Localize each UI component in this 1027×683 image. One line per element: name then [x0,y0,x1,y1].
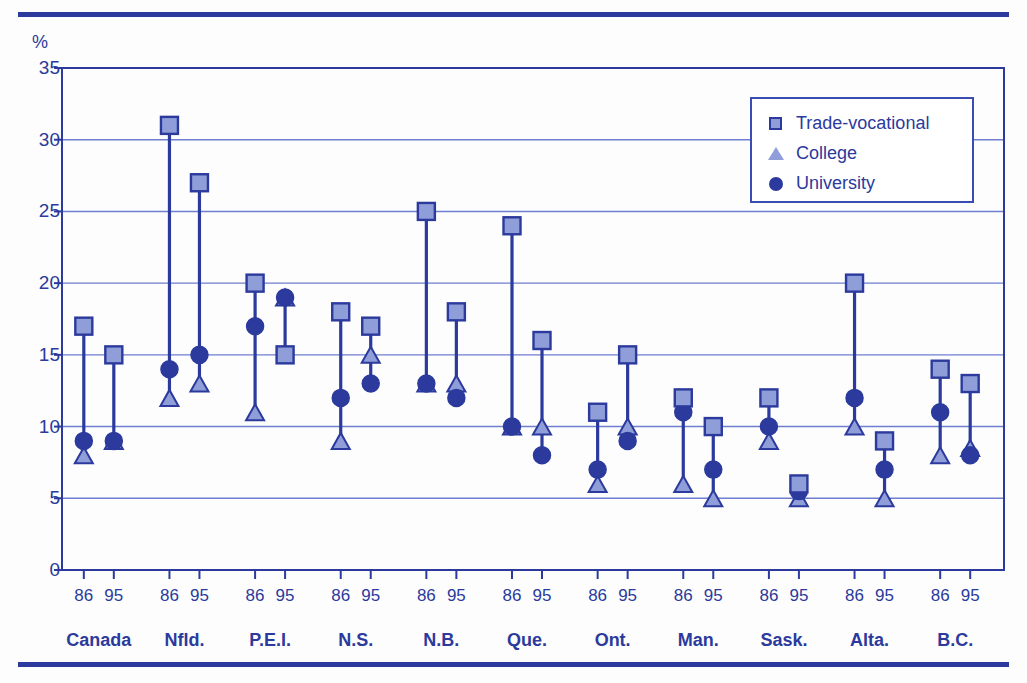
x-axis-region-label: Que. [507,630,547,651]
x-axis-year-label: 95 [533,586,552,606]
marker-university-circle[interactable] [932,404,949,421]
x-axis-year-label: 86 [331,586,350,606]
marker-trade-vocational-square[interactable] [418,203,435,220]
marker-university-circle[interactable] [876,461,893,478]
legend-square-icon-shape [769,117,782,130]
x-axis-year-label: 86 [74,586,93,606]
x-axis-year-label: 95 [704,586,723,606]
marker-university-circle[interactable] [589,461,606,478]
x-axis-year-label: 95 [361,586,380,606]
marker-trade-vocational-square[interactable] [705,418,722,435]
legend-item-college[interactable]: College [766,138,972,168]
marker-college-triangle[interactable] [332,433,350,449]
legend-square-icon [766,112,788,134]
marker-trade-vocational-square[interactable] [332,303,349,320]
marker-university-circle[interactable] [362,375,379,392]
marker-trade-vocational-square[interactable] [75,318,92,335]
x-axis-year-label: 86 [845,586,864,606]
x-axis-year-label: 86 [503,586,522,606]
marker-trade-vocational-square[interactable] [448,303,465,320]
x-axis-region-label: N.S. [338,630,373,651]
marker-university-circle[interactable] [760,418,777,435]
x-axis-region-label: B.C. [937,630,973,651]
x-axis-year-label: 95 [104,586,123,606]
marker-university-circle[interactable] [846,389,863,406]
x-axis-region-label: Alta. [850,630,889,651]
marker-college-triangle[interactable] [246,404,264,420]
marker-university-circle[interactable] [247,318,264,335]
marker-university-circle[interactable] [962,447,979,464]
marker-trade-vocational-square[interactable] [760,389,777,406]
legend-triangle-icon-shape [768,147,784,160]
marker-trade-vocational-square[interactable] [790,475,807,492]
x-axis-year-label: 86 [931,586,950,606]
marker-trade-vocational-square[interactable] [619,346,636,363]
marker-trade-vocational-square[interactable] [191,174,208,191]
legend-label: Trade-vocational [796,114,929,132]
x-axis-year-label: 95 [190,586,209,606]
marker-trade-vocational-square[interactable] [675,389,692,406]
chart-legend: Trade-vocationalCollegeUniversity [750,97,974,203]
legend-item-trade-vocational[interactable]: Trade-vocational [766,108,972,138]
marker-university-circle[interactable] [534,447,551,464]
marker-university-circle[interactable] [448,389,465,406]
marker-trade-vocational-square[interactable] [277,346,294,363]
marker-trade-vocational-square[interactable] [534,332,551,349]
marker-university-circle[interactable] [619,432,636,449]
marker-college-triangle[interactable] [674,476,692,492]
x-axis-year-label: 95 [875,586,894,606]
marker-trade-vocational-square[interactable] [846,275,863,292]
legend-label: College [796,144,857,162]
x-axis-region-label: Canada [66,630,131,651]
marker-trade-vocational-square[interactable] [876,432,893,449]
x-axis-region-label: Nfld. [164,630,204,651]
marker-university-circle[interactable] [504,418,521,435]
legend-circle-icon [766,172,788,194]
legend-triangle-icon [766,142,788,164]
marker-college-triangle[interactable] [931,447,949,463]
marker-university-circle[interactable] [705,461,722,478]
marker-university-circle[interactable] [75,432,92,449]
x-axis-region-label: P.E.I. [249,630,291,651]
marker-trade-vocational-square[interactable] [962,375,979,392]
x-axis-year-label: 95 [961,586,980,606]
x-axis-year-label: 86 [417,586,436,606]
x-axis-year-label: 86 [759,586,778,606]
marker-university-circle[interactable] [332,389,349,406]
x-axis-year-label: 86 [160,586,179,606]
x-axis-year-label: 86 [246,586,265,606]
marker-trade-vocational-square[interactable] [504,217,521,234]
marker-trade-vocational-square[interactable] [105,346,122,363]
marker-trade-vocational-square[interactable] [932,361,949,378]
marker-university-circle[interactable] [105,432,122,449]
x-axis-year-label: 95 [447,586,466,606]
marker-college-triangle[interactable] [160,390,178,406]
marker-college-triangle[interactable] [190,376,208,392]
marker-university-circle[interactable] [418,375,435,392]
x-axis-region-label: Man. [678,630,719,651]
marker-university-circle[interactable] [277,289,294,306]
marker-trade-vocational-square[interactable] [161,117,178,134]
chart-figure: % 05101520253035 86958695869586958695869… [0,0,1027,683]
x-axis-region-label: N.B. [423,630,459,651]
marker-university-circle[interactable] [191,346,208,363]
x-axis-year-label: 86 [674,586,693,606]
legend-circle-icon-shape [769,177,783,191]
x-axis-year-label: 95 [789,586,808,606]
x-axis-region-label: Ont. [595,630,631,651]
marker-trade-vocational-square[interactable] [362,318,379,335]
x-axis-region-label: Sask. [760,630,807,651]
marker-university-circle[interactable] [161,361,178,378]
x-axis-year-label: 95 [276,586,295,606]
x-axis-year-label: 86 [588,586,607,606]
marker-trade-vocational-square[interactable] [589,404,606,421]
x-axis-year-label: 95 [618,586,637,606]
legend-item-university[interactable]: University [766,168,972,198]
legend-label: University [796,174,875,192]
marker-trade-vocational-square[interactable] [247,275,264,292]
